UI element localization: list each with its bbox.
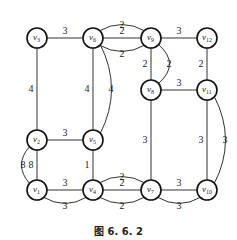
- node-v5: v5: [83, 130, 103, 150]
- edge-weight-label: 3: [63, 127, 68, 138]
- edge-weight-label: 3: [63, 177, 68, 188]
- edge-weight-label: 2: [199, 58, 204, 69]
- edge-weight-label: 2: [120, 48, 125, 59]
- edge-weight-label: 2: [143, 58, 148, 69]
- node-v3: v3: [27, 28, 47, 48]
- node-v6: v6: [83, 28, 103, 48]
- edge-weight-label: 3: [143, 134, 148, 145]
- edge-weight-label: 2: [120, 200, 125, 211]
- node-v11: v11: [197, 80, 217, 100]
- edge-weight-label: 3: [177, 200, 182, 211]
- edge-weight-label: 2: [167, 58, 172, 69]
- node-v8: v8: [141, 80, 161, 100]
- node-v1: v1: [27, 180, 47, 200]
- weights-layer: 32223444222338813322233333: [21, 19, 228, 211]
- edge-weight-label: 4: [85, 83, 90, 94]
- edge-weight-label: 4: [109, 83, 114, 94]
- figure-caption: 图 6. 6. 2: [0, 223, 237, 238]
- edge-weight-label: 3: [199, 134, 204, 145]
- edge-weight-label: 8: [29, 159, 34, 170]
- edge-weight-label: 4: [29, 83, 34, 94]
- node-v2: v2: [27, 130, 47, 150]
- edge-weight-label: 3: [177, 25, 182, 36]
- edge-weight-label: 3: [223, 134, 228, 145]
- edge-weight-label: 2: [120, 25, 125, 36]
- edge-weight-label: 3: [63, 200, 68, 211]
- node-v4: v4: [83, 180, 103, 200]
- graph-diagram: 32223444222338813322233333 v1v2v3v4v5v6v…: [0, 0, 237, 240]
- node-v10: v10: [197, 180, 217, 200]
- node-v9: v9: [141, 28, 161, 48]
- edge-weight-label: 3: [63, 25, 68, 36]
- edge-weight-label: 3: [177, 177, 182, 188]
- edge-weight-label: 8: [21, 159, 26, 170]
- edge-weight-label: 3: [177, 77, 182, 88]
- edge-weight-label: 2: [120, 177, 125, 188]
- node-v7: v7: [141, 180, 161, 200]
- node-v12: v12: [197, 28, 217, 48]
- edge-weight-label: 1: [85, 159, 90, 170]
